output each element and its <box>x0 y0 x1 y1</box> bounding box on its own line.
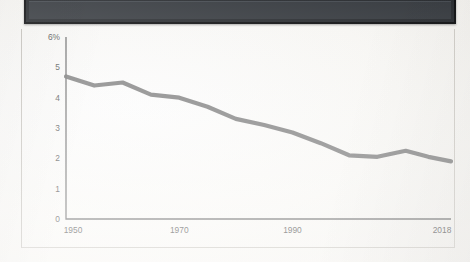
document-header-bar-inner <box>29 1 451 19</box>
y-tick-label: 2 <box>55 153 60 163</box>
line-chart: 0123456% 1950197019902018 <box>22 29 456 248</box>
x-tick-label: 2018 <box>433 225 452 235</box>
y-tick-label: 3 <box>55 123 60 133</box>
y-axis-tick-labels: 0123456% <box>48 32 61 224</box>
y-tick-label: 4 <box>55 93 60 103</box>
chart-svg: 0123456% 1950197019902018 <box>22 29 456 248</box>
x-tick-label: 1990 <box>283 225 302 235</box>
x-tick-label: 1950 <box>64 225 83 235</box>
x-axis-tick-labels: 1950197019902018 <box>64 225 452 235</box>
document-header-bar <box>24 0 456 24</box>
chart-axes <box>66 37 451 219</box>
chart-panel: 0123456% 1950197019902018 <box>21 29 455 248</box>
data-series-line <box>66 76 451 161</box>
y-tick-label: 0 <box>55 214 60 224</box>
y-tick-label: 5 <box>55 62 60 72</box>
y-tick-label: 1 <box>55 184 60 194</box>
y-tick-label: 6% <box>48 32 61 42</box>
x-tick-label: 1970 <box>170 225 189 235</box>
